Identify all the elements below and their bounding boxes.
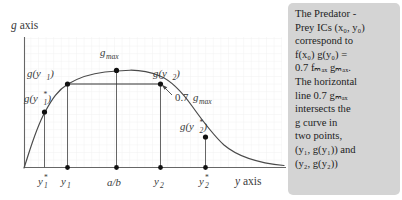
xtick-label-y1star: y [37, 175, 43, 187]
label-g-y2star-close: ) [203, 120, 208, 133]
xtick-label-ab: a/b [107, 176, 121, 188]
note-line: 0.7 fₘₐₓ gₘₐₓ. [295, 61, 395, 75]
predator-prey-g-curve-figure: g axis y axis [0, 0, 290, 200]
note-line: (y₂, g(y₂)) [295, 157, 395, 171]
xtick-label-y1-sub: 1 [67, 181, 71, 190]
tick-dot-ab [114, 165, 119, 170]
note-line: The horizontal [295, 75, 395, 89]
label-threshold-sub: max [199, 97, 212, 106]
tick-dot-y2 [158, 165, 163, 170]
label-g-y1star-close: ) [47, 92, 52, 105]
note-line: f(x₀) g(y₀) = [295, 48, 395, 62]
note-line: Prey ICs (x₀, y₀) [295, 21, 395, 35]
note-line: intersects the [295, 102, 395, 116]
label-g-max-sub: max [106, 52, 119, 61]
chart-grid [24, 37, 282, 168]
note-line-list: The Predator - Prey ICs (x₀, y₀) corresp… [295, 7, 395, 170]
note-line: g curve in [295, 116, 395, 130]
xtick-label-y1star-sub: 1 [44, 181, 48, 190]
xtick-label-y1star-superstar: * [44, 173, 48, 182]
note-line: two points, [295, 129, 395, 143]
label-g-y2star: g(y [180, 120, 194, 133]
label-g-y1: g(y [27, 67, 41, 80]
note-line: (y₁, g(y₁)) and [295, 143, 395, 157]
xtick-label-y2: y [153, 175, 159, 187]
label-g-y1-close: ) [49, 67, 54, 80]
label-g-y2-close: ) [175, 67, 180, 80]
label-g-y2: g(y [153, 67, 167, 80]
point-g-y2star [203, 134, 208, 139]
xtick-label-y1: y [60, 175, 66, 187]
point-g-y1 [65, 81, 70, 86]
note-line: correspond to [295, 34, 395, 48]
xtick-label-y2star: y [198, 175, 204, 187]
note-line: line 0.7 gₘₐₓ [295, 89, 395, 103]
point-g-max [114, 68, 119, 73]
xtick-label-y2-sub: 2 [160, 181, 164, 190]
label-g-y1star: g(y [24, 92, 38, 105]
label-threshold: 0.7 [175, 91, 189, 103]
point-g-y1star [42, 109, 47, 114]
note-line: The Predator - [295, 7, 395, 21]
xtick-label-y2star-sub: 2 [205, 181, 209, 190]
tick-dot-y1 [65, 165, 70, 170]
figure-with-note: g axis y axis [0, 0, 402, 200]
explanatory-note-panel: The Predator - Prey ICs (x₀, y₀) corresp… [288, 3, 400, 195]
tick-dot-y2star [203, 165, 208, 170]
xtick-label-y2star-superstar: * [205, 173, 209, 182]
g-axis-label: g axis [11, 19, 39, 32]
y-axis-label: y axis [234, 175, 262, 188]
